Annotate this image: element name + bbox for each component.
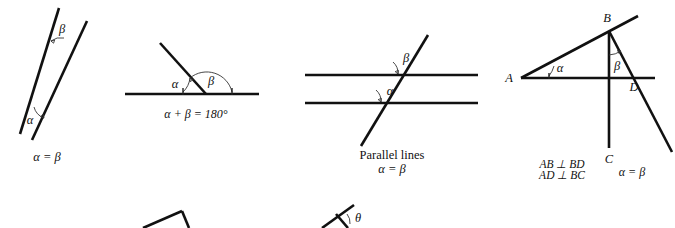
diagram-parallel-lines: β α Parallel lines α = β [305,35,478,176]
vertical-angles-beta-arrow [51,40,55,43]
parallel-beta-label: β [402,51,410,65]
parallel-caption-line2: α = β [378,162,406,176]
parallel-alpha-arrow [378,98,381,102]
parallel-alpha-label: α [387,84,394,98]
supplementary-alpha-label: α [172,77,179,91]
supplementary-ray [160,43,206,94]
diagram-perpendicular-sides: α β A B C D AB ⊥ BD AD ⊥ BC α = β [504,11,672,181]
supplementary-beta-label: β [207,74,215,88]
perp-line-AB-extended [521,16,638,78]
partial-theta-arc [347,214,350,224]
perp-beta-label: β [613,59,621,73]
perp-point-A-label: A [504,71,513,85]
partial-vertex-left-ray [143,211,182,228]
parallel-transversal [361,35,428,146]
vertical-angles-line-2 [32,21,87,140]
partial-theta-label: θ [355,211,361,225]
partial-theta-ray-2 [336,214,348,228]
supplementary-caption: α + β = 180° [164,107,227,121]
vertical-angles-beta-label: β [58,22,66,36]
parallel-caption-line1: Parallel lines [360,148,425,162]
vertical-angles-alpha-label: α [27,113,34,127]
diagram-vertical-angles: β α α = β [20,8,87,164]
perp-point-C-label: C [605,152,614,166]
perp-line-BD-extended [609,31,672,152]
perp-point-B-label: B [603,11,611,25]
parallel-beta-arrow [395,70,398,74]
figure-canvas: β α α = β α β α + β = 180° [0,0,675,228]
perp-alpha-label: α [557,61,564,75]
diagram-partial-vertex-bottom-left [143,211,189,228]
partial-vertex-right-ray [182,211,189,228]
perp-alpha-arc [549,66,554,76]
vertical-angles-caption: α = β [33,150,61,164]
perp-caption-line2: AD ⊥ BC [538,169,585,181]
perp-point-D-label: D [628,80,638,94]
diagram-partial-theta-bottom-right: θ [322,205,361,228]
perp-caption-result: α = β [619,165,645,179]
diagram-supplementary-angles: α β α + β = 180° [125,43,259,121]
supplementary-alpha-arc [183,78,190,92]
geometry-figures: β α α = β α β α + β = 180° [0,0,675,228]
